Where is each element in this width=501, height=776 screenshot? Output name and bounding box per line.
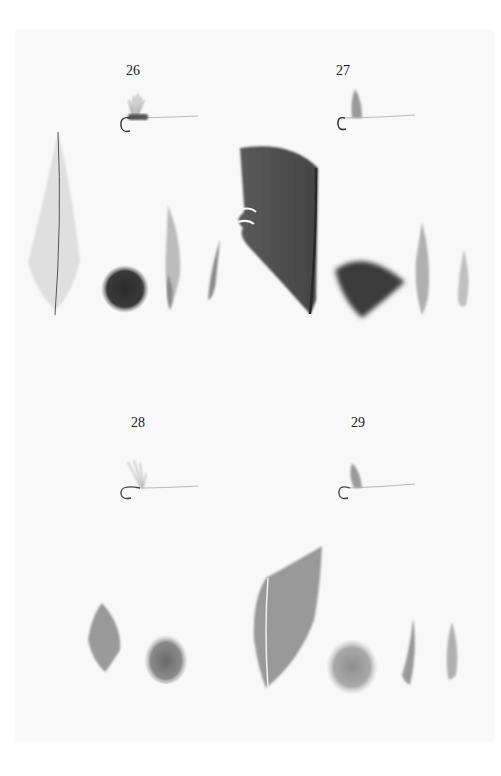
small-quill-slip-27 [458,250,469,307]
small-quill-slip-29 [447,622,458,679]
fly-26 [121,94,198,131]
small-oval-feather-28 [88,603,120,672]
fly-29 [339,463,415,499]
broad-wing-quill-29 [254,546,322,688]
narrow-quill-slip-29 [402,618,415,685]
pale-fur-dubbing-29 [326,639,378,695]
small-curved-slip-26 [208,240,220,300]
fly-28 [121,460,198,499]
long-pale-feather-26 [28,132,80,315]
fly-27 [338,89,415,130]
large-dark-wing-quill-27 [238,146,318,314]
dark-hackle-fan-27 [335,261,405,318]
dark-fur-dubbing-26 [101,265,149,313]
medium-fur-dubbing-28 [144,632,188,684]
narrow-quill-slip-27 [416,222,430,315]
fly-tying-illustrations [0,0,501,776]
